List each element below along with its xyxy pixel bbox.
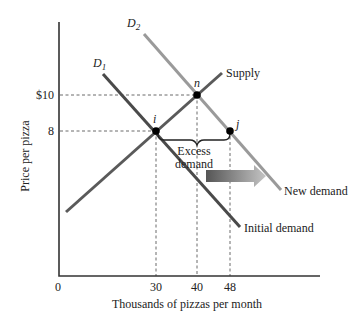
point-n-label: n <box>194 76 200 90</box>
x-tick-48: 48 <box>224 280 236 294</box>
y-axis-title: Price per pizza <box>18 120 32 192</box>
d2-label: D2 <box>126 16 141 32</box>
supply-label: Supply <box>226 66 260 80</box>
excess-demand-label-line2: demand <box>175 157 213 171</box>
x-axis-title: Thousands of pizzas per month <box>112 297 262 311</box>
point-n <box>193 91 201 99</box>
x-tick-0: 0 <box>55 280 61 294</box>
point-j-label: j <box>234 117 240 131</box>
point-i-label: i <box>153 112 156 126</box>
new-demand-label: New demand <box>284 184 348 198</box>
initial-demand-label: Initial demand <box>244 221 314 235</box>
initial-demand-curve <box>103 74 240 227</box>
x-tick-40: 40 <box>191 280 203 294</box>
y-tick-8: 8 <box>48 124 54 138</box>
x-tick-30: 30 <box>150 280 162 294</box>
point-j <box>226 127 234 135</box>
y-tick-10: $10 <box>36 88 54 102</box>
d1-label: D1 <box>92 56 106 72</box>
supply-demand-chart: i n j D2 D1 Supply New demand Initial de… <box>0 0 359 321</box>
demand-shift-arrow <box>206 165 266 187</box>
excess-demand-label-line1: Excess <box>177 144 211 158</box>
point-i <box>152 127 160 135</box>
